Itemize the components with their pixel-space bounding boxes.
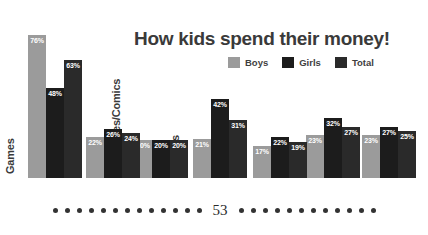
footer-dot-icon — [77, 208, 82, 213]
bar-value-label: 27% — [342, 129, 360, 137]
bar-boys-clothes: 21% — [193, 139, 211, 178]
footer-dot-icon — [65, 208, 70, 213]
bar-girls-magazines-comics: 20% — [152, 140, 170, 178]
bar-girls-clothes: 42% — [211, 99, 229, 178]
footer-dot-icon — [125, 208, 130, 213]
bar-total-games: 63% — [64, 60, 82, 178]
bar-total-sweets: 24% — [122, 133, 140, 178]
bar-value-label: 24% — [122, 135, 140, 143]
bar-group: 23%27%25% — [362, 0, 416, 178]
bar-value-label: 23% — [306, 137, 324, 145]
bar-boys-sweets: 22% — [86, 137, 104, 178]
category-label-games: Games — [4, 138, 16, 174]
chart-plot-area: Games76%48%63%Sweets22%26%24%Magazines/C… — [0, 0, 428, 178]
footer-dot-icon — [347, 208, 352, 213]
bar-total-books: 25% — [398, 131, 416, 178]
bar-value-label: 23% — [362, 137, 380, 145]
bar-group: 20%20%20% — [134, 0, 188, 178]
bar-group: 23%32%27% — [306, 0, 360, 178]
footer-dot-icon — [359, 208, 364, 213]
footer-dot-icon — [89, 208, 94, 213]
bar-girls-games: 48% — [46, 88, 64, 178]
page-footer: 53 — [0, 198, 428, 222]
bar-value-label: 20% — [170, 142, 188, 150]
bar-value-label: 32% — [324, 120, 342, 128]
footer-dot-icon — [287, 208, 292, 213]
bar-value-label: 17% — [253, 148, 271, 156]
footer-dot-icon — [251, 208, 256, 213]
bar-total-shoes: 19% — [289, 142, 307, 178]
footer-dot-icon — [263, 208, 268, 213]
footer-dot-icon — [185, 208, 190, 213]
bar-value-label: 22% — [271, 139, 289, 147]
bar-group: 76%48%63% — [28, 0, 82, 178]
bar-girls-books: 27% — [380, 127, 398, 178]
footer-dot-icon — [197, 208, 202, 213]
bar-value-label: 42% — [211, 101, 229, 109]
bar-total-cds: 27% — [342, 127, 360, 178]
bar-girls-sweets: 26% — [104, 129, 122, 178]
footer-dot-icon — [335, 208, 340, 213]
bar-value-label: 31% — [229, 122, 247, 130]
bar-group: 17%22%19% — [253, 0, 307, 178]
bar-value-label: 27% — [380, 129, 398, 137]
footer-dot-icon — [161, 208, 166, 213]
bar-value-label: 26% — [104, 131, 122, 139]
bar-value-label: 20% — [152, 142, 170, 150]
bar-boys-games: 76% — [28, 35, 46, 178]
footer-dot-icon — [173, 208, 178, 213]
footer-dots-right — [239, 208, 376, 213]
bar-value-label: 22% — [86, 139, 104, 147]
footer-dot-icon — [371, 208, 376, 213]
bar-girls-shoes: 22% — [271, 137, 289, 178]
bar-total-clothes: 31% — [229, 120, 247, 178]
footer-dot-icon — [323, 208, 328, 213]
footer-dot-icon — [149, 208, 154, 213]
bar-value-label: 25% — [398, 133, 416, 141]
footer-dot-icon — [101, 208, 106, 213]
bar-value-label: 48% — [46, 90, 64, 98]
page-number: 53 — [213, 203, 228, 218]
bar-value-label: 21% — [193, 141, 211, 149]
footer-dot-icon — [113, 208, 118, 213]
bar-group: 21%42%31% — [193, 0, 247, 178]
footer-dot-icon — [311, 208, 316, 213]
footer-dot-icon — [239, 208, 244, 213]
bar-boys-cds: 23% — [306, 135, 324, 178]
chart-page: How kids spend their money! BoysGirlsTot… — [0, 0, 428, 235]
bar-girls-cds: 32% — [324, 118, 342, 178]
footer-dot-icon — [275, 208, 280, 213]
footer-dot-icon — [53, 208, 58, 213]
bar-boys-shoes: 17% — [253, 146, 271, 178]
bar-boys-books: 23% — [362, 135, 380, 178]
bar-value-label: 76% — [28, 37, 46, 45]
bar-value-label: 19% — [289, 144, 307, 152]
footer-dots-left — [53, 208, 202, 213]
footer-dot-icon — [137, 208, 142, 213]
bar-value-label: 63% — [64, 62, 82, 70]
bar-total-magazines-comics: 20% — [170, 140, 188, 178]
footer-dot-icon — [299, 208, 304, 213]
